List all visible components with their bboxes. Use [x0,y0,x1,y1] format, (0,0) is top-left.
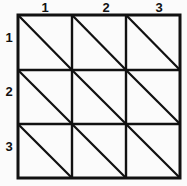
grid-diagram: 1 2 3 1 2 3 [0,0,187,186]
column-label-1: 1 [38,1,52,15]
column-label-2: 2 [99,1,113,15]
row-label-3: 3 [2,140,16,154]
row-label-1: 1 [2,31,16,45]
row-label-2: 2 [2,85,16,99]
diagonal-r2c1 [19,71,71,123]
diagonal-r3c1 [19,125,71,177]
diagonal-r1c2 [73,16,125,69]
diagonal-r2c3 [127,71,179,123]
diagonal-r3c3 [127,125,179,177]
diagonal-r1c1 [19,16,71,69]
grid-canvas [0,0,187,186]
diagonal-r1c3 [127,16,179,69]
column-label-3: 3 [152,1,166,15]
cell-diagonals [19,16,179,177]
diagonal-r2c2 [73,71,125,123]
diagonal-r3c2 [73,125,125,177]
